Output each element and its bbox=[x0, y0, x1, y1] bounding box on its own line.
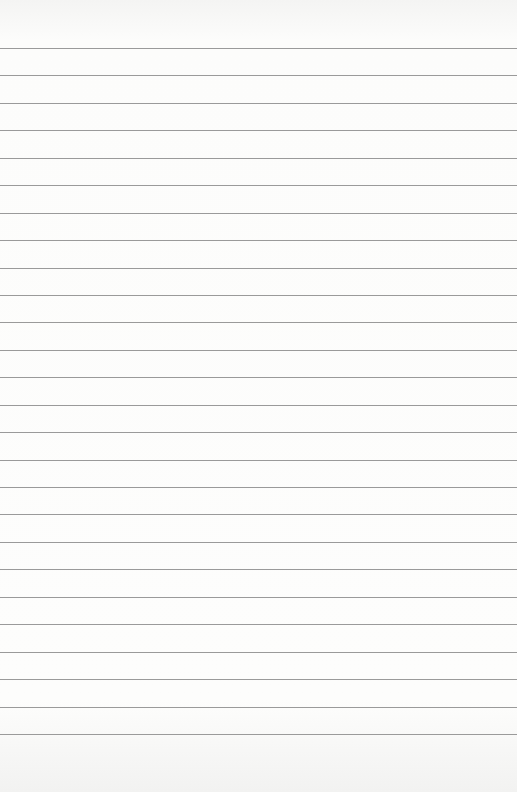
ruled-line bbox=[0, 405, 517, 406]
ruled-line bbox=[0, 48, 517, 49]
ruled-line bbox=[0, 213, 517, 214]
ruled-line bbox=[0, 460, 517, 461]
ruled-line bbox=[0, 103, 517, 104]
ruled-line bbox=[0, 734, 517, 735]
ruled-line bbox=[0, 487, 517, 488]
ruled-line bbox=[0, 130, 517, 131]
ruled-line bbox=[0, 679, 517, 680]
ruled-line bbox=[0, 597, 517, 598]
lined-paper-sheet bbox=[0, 0, 517, 792]
ruled-line bbox=[0, 569, 517, 570]
ruled-line bbox=[0, 624, 517, 625]
ruled-line bbox=[0, 350, 517, 351]
ruled-line bbox=[0, 652, 517, 653]
ruled-line bbox=[0, 240, 517, 241]
ruled-line bbox=[0, 185, 517, 186]
ruled-line bbox=[0, 322, 517, 323]
ruled-line bbox=[0, 707, 517, 708]
ruled-line bbox=[0, 268, 517, 269]
ruled-line bbox=[0, 542, 517, 543]
ruled-line bbox=[0, 514, 517, 515]
ruled-line bbox=[0, 377, 517, 378]
ruled-line bbox=[0, 158, 517, 159]
ruled-line bbox=[0, 295, 517, 296]
ruled-line bbox=[0, 75, 517, 76]
ruled-line bbox=[0, 432, 517, 433]
